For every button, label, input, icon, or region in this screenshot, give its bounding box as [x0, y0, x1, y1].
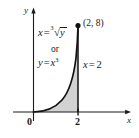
- point-marker-2-8: [75, 23, 80, 28]
- x-axis-label: x: [127, 116, 131, 125]
- x-tick-label-2: 2: [75, 117, 80, 127]
- equation-inverse-equals: =: [43, 27, 51, 38]
- vertical-line-value: 2: [96, 59, 103, 70]
- point-label-2-8: (2, 8): [83, 19, 104, 29]
- equation-direct-equals: =: [43, 57, 51, 68]
- label-x-equals-2: x=2: [83, 60, 103, 71]
- equation-inverse-variable: x: [38, 27, 43, 38]
- origin-label: 0: [27, 117, 32, 127]
- equation-direct-exponent: 3: [55, 56, 58, 63]
- equation-connector: or: [51, 45, 59, 55]
- radical-vinculum: [60, 27, 67, 28]
- coordinate-plot: [0, 0, 139, 138]
- figure-canvas: y x 0 2 (2, 8) x= 3 √ y or y=x3 x=2: [0, 0, 139, 138]
- vertical-line-equals: =: [88, 59, 96, 70]
- equation-direct: y=x3: [38, 58, 59, 69]
- y-axis-label: y: [24, 6, 28, 15]
- cube-root-radical: 3 √ y: [51, 28, 65, 39]
- y-axis-arrowhead: [31, 8, 35, 14]
- vertical-line-variable: x: [83, 59, 88, 70]
- equation-direct-variable: y: [38, 57, 43, 68]
- radical-sign-icon: √: [54, 27, 60, 38]
- equation-inverse: x= 3 √ y: [38, 28, 65, 39]
- x-axis-arrowhead: [125, 110, 131, 114]
